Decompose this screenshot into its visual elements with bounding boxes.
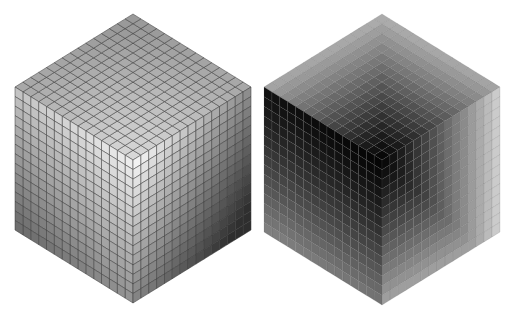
light-shaded-cube (15, 14, 251, 303)
figure-caption (175, 308, 375, 316)
dark-shaded-cube (264, 14, 500, 305)
cube-figure (0, 0, 511, 316)
